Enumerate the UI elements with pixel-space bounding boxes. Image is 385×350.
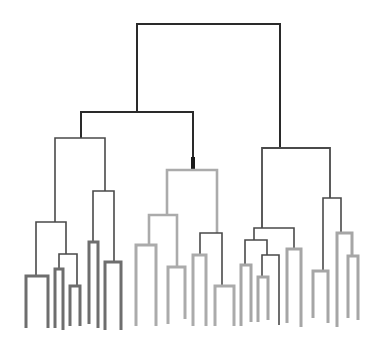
dendrogram-link-L1b1 xyxy=(89,242,98,328)
dendrogram-link-R xyxy=(262,148,330,228)
dendrogram-link-L1a1 xyxy=(26,276,48,328)
dendrogram-link-L1a2a xyxy=(55,269,63,330)
dendrogram-link-L1b2 xyxy=(105,262,121,330)
dendrogram-link-L1a2b xyxy=(70,286,80,326)
dendrogram-link-R1 xyxy=(254,228,294,249)
dendrogram-link-M1a xyxy=(136,245,156,326)
dendrogram-link-M2a xyxy=(193,255,206,326)
dendrogram-link-M1 xyxy=(149,215,177,267)
dendrogram-link-L xyxy=(81,112,193,170)
dendrogram-link-R2a xyxy=(313,271,328,323)
dendrogram-link-root xyxy=(137,24,280,148)
dendrogram-link-M2 xyxy=(200,233,222,286)
dendrogram-canvas xyxy=(0,0,385,350)
dendrogram-link-R1a2a xyxy=(258,277,268,322)
dendrogram-link-R1a1 xyxy=(241,265,251,326)
dendrogram-link-M1b xyxy=(168,267,185,324)
dendrogram-link-R2b1 xyxy=(348,256,358,320)
dendrogram-link-M2b xyxy=(215,286,234,326)
dendrogram-link-R1a xyxy=(245,240,267,265)
dendrogram-link-R1a2 xyxy=(262,255,279,325)
dendrogram-link-M xyxy=(167,170,217,233)
dendrogram-link-R2b xyxy=(337,233,352,327)
dendrogram-link-L1b xyxy=(93,191,114,262)
dendrogram-link-L1 xyxy=(55,138,105,222)
dendrogram-link-R1b xyxy=(287,249,301,327)
dendrogram xyxy=(0,0,385,350)
